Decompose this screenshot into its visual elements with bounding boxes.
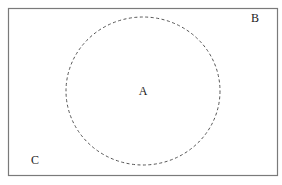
venn-diagram: A B C xyxy=(0,0,282,185)
complement-label: C xyxy=(31,153,39,167)
set-a-label: A xyxy=(139,84,148,98)
universe-label: B xyxy=(251,11,259,25)
